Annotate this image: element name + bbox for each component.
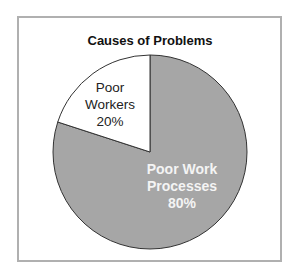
label-processes-line2: Processes [147,178,217,194]
label-processes-pct: 80% [168,195,197,211]
label-processes-line1: Poor Work [147,161,218,177]
pie-chart: Poor Workers 20% Poor Work Processes 80% [0,0,300,277]
label-poor-workers-line1: Poor [96,80,125,95]
label-poor-workers-pct: 20% [96,114,123,129]
label-poor-workers-line2: Workers [85,97,135,112]
